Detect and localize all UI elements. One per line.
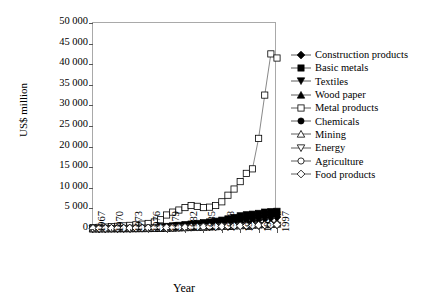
y-axis-tick-mark xyxy=(89,126,93,127)
y-axis-tick-mark xyxy=(89,167,93,168)
series-metal-products xyxy=(90,51,280,231)
x-axis-title: Year xyxy=(92,281,276,296)
y-axis-tick-label: 25 000 xyxy=(36,119,88,130)
filled-square-icon xyxy=(290,62,312,74)
legend-item[interactable]: Textiles xyxy=(290,75,436,88)
x-axis-tick-label: 1997 xyxy=(281,211,292,232)
y-axis-tick-mark xyxy=(89,23,93,24)
x-axis-tick-label: 1970 xyxy=(115,211,126,232)
x-axis-tick-label: 1976 xyxy=(152,211,163,232)
y-axis-tick-mark xyxy=(89,64,93,65)
filled-down-triangle-icon xyxy=(290,75,312,87)
legend-label: Food products xyxy=(312,169,375,180)
y-axis-title: US$ million xyxy=(17,65,29,155)
x-axis-tick-label: 1979 xyxy=(171,211,182,232)
open-diamond-icon xyxy=(290,168,312,180)
y-axis-tick-mark xyxy=(89,188,93,189)
x-axis-tick-labels: 1967197019731976197919821985198819911994… xyxy=(92,230,276,274)
x-axis-tick-label: 1973 xyxy=(134,211,145,232)
y-axis-tick-label: 20 000 xyxy=(36,140,88,151)
x-axis-tick-label: 1988 xyxy=(226,211,237,232)
y-axis-tick-label: 30 000 xyxy=(36,98,88,109)
legend-label: Metal products xyxy=(312,102,378,113)
legend-label: Energy xyxy=(312,142,345,153)
legend-item[interactable]: Food products xyxy=(290,168,436,181)
y-axis-tick-label: 35 000 xyxy=(36,78,88,89)
y-axis-tick-label: 15 000 xyxy=(36,160,88,171)
legend-label: Agriculture xyxy=(312,156,363,167)
open-square-icon xyxy=(290,102,312,114)
y-axis-tick-mark xyxy=(89,105,93,106)
y-axis-tick-label: 40 000 xyxy=(36,57,88,68)
open-up-triangle-icon xyxy=(290,128,312,140)
legend-item[interactable]: Wood paper xyxy=(290,88,436,101)
y-axis-tick-label: 0 xyxy=(36,222,88,233)
y-axis-tick-label: 45 000 xyxy=(36,37,88,48)
y-axis-tick-label: 5 000 xyxy=(36,201,88,212)
filled-up-triangle-icon xyxy=(290,89,312,101)
x-axis-tick-label: 1994 xyxy=(263,211,274,232)
legend-label: Mining xyxy=(312,129,346,140)
plot-area xyxy=(92,22,276,228)
y-axis-tick-mark xyxy=(89,44,93,45)
legend-label: Textiles xyxy=(312,76,348,87)
legend-item[interactable]: Metal products xyxy=(290,101,436,114)
y-axis-tick-mark xyxy=(89,85,93,86)
filled-diamond-icon xyxy=(290,49,312,61)
legend-item[interactable]: Basic metals xyxy=(290,61,436,74)
legend-item[interactable]: Energy xyxy=(290,141,436,154)
legend: Construction productsBasic metalsTextile… xyxy=(290,48,436,181)
filled-circle-icon xyxy=(290,115,312,127)
y-axis-tick-mark xyxy=(89,208,93,209)
legend-item[interactable]: Construction products xyxy=(290,48,436,61)
x-axis-tick-label: 1985 xyxy=(207,211,218,232)
y-axis-tick-labels: 50 00045 00040 00035 00030 00025 00020 0… xyxy=(32,0,88,302)
legend-item[interactable]: Chemicals xyxy=(290,114,436,127)
chart-figure: US$ million 50 00045 00040 00035 00030 0… xyxy=(0,0,436,302)
x-axis-tick-mark xyxy=(277,229,278,233)
series-layer xyxy=(93,23,277,229)
legend-label: Basic metals xyxy=(312,62,368,73)
legend-item[interactable]: Mining xyxy=(290,128,436,141)
legend-label: Wood paper xyxy=(312,89,366,100)
legend-item[interactable]: Agriculture xyxy=(290,154,436,167)
y-axis-tick-label: 50 000 xyxy=(36,16,88,27)
x-axis-tick-label: 1967 xyxy=(97,211,108,232)
open-down-triangle-icon xyxy=(290,142,312,154)
legend-label: Chemicals xyxy=(312,116,359,127)
y-axis-tick-mark xyxy=(89,147,93,148)
x-axis-tick-label: 1982 xyxy=(189,211,200,232)
x-axis-tick-label: 1991 xyxy=(244,211,255,232)
open-circle-icon xyxy=(290,155,312,167)
y-axis-tick-label: 10 000 xyxy=(36,181,88,192)
legend-label: Construction products xyxy=(312,49,408,60)
